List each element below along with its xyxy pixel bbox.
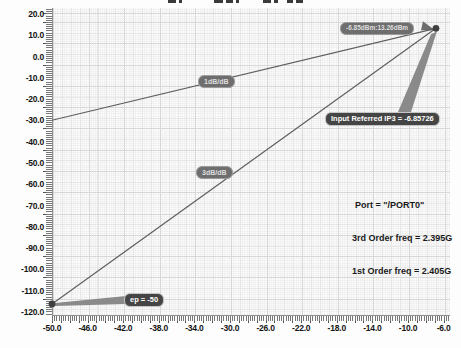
first-order-trace[interactable] [52,28,436,120]
intercept-marker-badge[interactable]: -6.85dBm:13.26dBm [340,22,414,35]
slope-3db-badge[interactable]: 3dB/dB [196,166,233,179]
ip3-plot-window: 20.010.00.0-10.0-20.0-30.0-40.0-50.0-60.… [0,0,461,348]
intercept-point-dot[interactable] [433,25,440,32]
ip3-pointer-wedge [398,31,437,112]
extrapolation-point-dot[interactable] [49,301,56,308]
extrapolation-point-badge[interactable]: ep = -50 [124,293,164,307]
third-order-trace[interactable] [52,28,436,304]
slope-1db-badge[interactable]: 1dB/dB [198,75,235,88]
input-referred-ip3-badge[interactable]: Input Referred IP3 = -6.85726 [325,112,440,126]
ep-pointer-wedge [55,296,126,306]
